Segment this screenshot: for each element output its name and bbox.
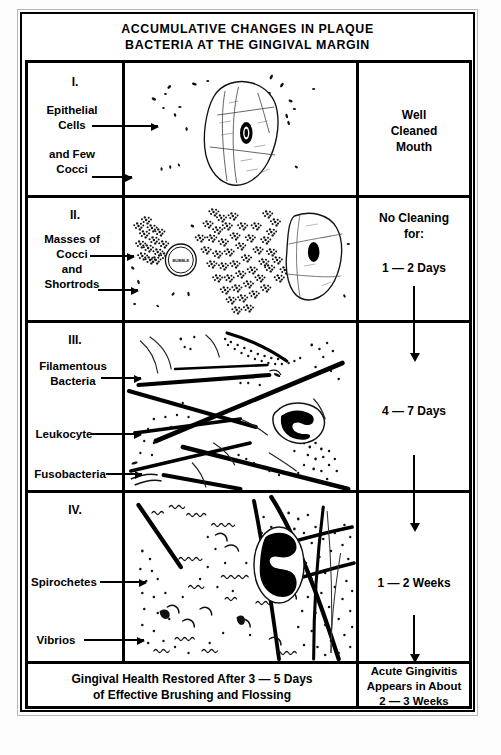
label-leukocyte: Leukocyte <box>28 427 100 442</box>
time-well-cleaned-mouth: Well Cleaned Mouth <box>359 107 469 155</box>
stage-numeral-ii: II. <box>28 208 122 222</box>
pointer-epithelial-cells <box>92 125 158 127</box>
label-and-few-cocci-line1: and Few <box>28 147 116 162</box>
label-vibrios: Vibrios <box>28 633 84 648</box>
footer-main-line1: Gingival Health Restored After 3 — 5 Day… <box>72 671 313 687</box>
pointer-fusobacteria <box>106 473 142 475</box>
footer-main-message: Gingival Health Restored After 3 — 5 Day… <box>28 664 359 709</box>
cocci-mass-center <box>195 208 291 314</box>
arrow-head-into-iv <box>413 490 415 524</box>
arrow-head-into-iii <box>413 320 415 354</box>
time-iv-duration: 1 — 2 Weeks <box>359 575 469 591</box>
label-and-few-cocci: and Few Cocci <box>28 147 116 177</box>
pointer-vibrios <box>84 639 144 641</box>
pointer-spirochetes <box>100 581 146 583</box>
pointer-filamentous-bacteria <box>101 377 141 379</box>
pointer-masses-of-cocci <box>90 255 134 257</box>
footer-side-message: Acute Gingivitis Appears in About 2 — 3 … <box>359 664 469 709</box>
panel-ii-illustration: BUBBLE <box>125 198 359 320</box>
pointer-shortrods <box>98 289 138 291</box>
time-ii-line2: for: <box>359 226 469 242</box>
stage-numeral-i: I. <box>28 75 122 89</box>
time-cell-i: Well Cleaned Mouth <box>359 63 469 195</box>
title-line-2: BACTERIA AT THE GINGIVAL MARGIN <box>125 37 370 53</box>
cocci-chain <box>224 338 301 366</box>
chart-frame: ACCUMULATIVE CHANGES IN PLAQUE BACTERIA … <box>20 12 475 712</box>
time-i-line3: Mouth <box>359 139 469 155</box>
footer-side-line2: Appears in About <box>367 679 462 694</box>
panel-iv-illustration <box>125 493 359 661</box>
label-cell-iv: IV. Spirochetes Vibrios <box>28 493 125 661</box>
panel-iv-artwork <box>125 493 356 661</box>
label-and-shortrods-line1: and <box>28 262 116 277</box>
row-stage-iii: III. Filamentous Bacteria Leukocyte Fuso… <box>28 323 469 493</box>
row-stage-ii: II. Masses of Cocci and Shortrods <box>28 198 469 323</box>
time-i-line1: Well <box>359 107 469 123</box>
diagram-page: ACCUMULATIVE CHANGES IN PLAQUE BACTERIA … <box>0 0 501 755</box>
time-no-cleaning: No Cleaning for: <box>359 210 469 242</box>
time-i-line2: Cleaned <box>359 123 469 139</box>
row-footer: Gingival Health Restored After 3 — 5 Day… <box>28 664 469 709</box>
time-ii-line1: No Cleaning <box>359 210 469 226</box>
label-cell-ii: II. Masses of Cocci and Shortrods <box>28 198 125 320</box>
bubble-marker: BUBBLE <box>165 244 196 276</box>
row-stage-i: I. Epithelial Cells and Few Cocci <box>28 63 469 198</box>
label-and-few-cocci-line2: Cocci <box>28 162 116 177</box>
label-masses-of-cocci: Masses of Cocci <box>28 232 116 262</box>
label-cell-i: I. Epithelial Cells and Few Cocci <box>28 63 125 195</box>
label-epithelial-cells-line1: Epithelial <box>28 103 116 118</box>
label-spirochetes: Spirochetes <box>28 575 100 590</box>
pointer-cocci <box>92 176 132 178</box>
stage-numeral-iii: III. <box>28 333 122 347</box>
panel-ii-artwork: BUBBLE <box>125 198 356 320</box>
footer-main-line2: of Effective Brushing and Flossing <box>93 687 291 703</box>
label-fusobacteria: Fusobacteria <box>28 467 112 482</box>
panel-i-illustration <box>125 63 359 195</box>
panel-iii-artwork <box>125 323 356 490</box>
filaments-iv <box>138 497 354 659</box>
time-cell-ii: No Cleaning for: 1 — 2 Days <box>359 198 469 320</box>
time-cell-iv: 1 — 2 Weeks <box>359 493 469 661</box>
time-cell-iii: 4 — 7 Days <box>359 323 469 490</box>
label-cell-iii: III. Filamentous Bacteria Leukocyte Fuso… <box>28 323 125 490</box>
panel-iii-illustration <box>125 323 359 490</box>
arrow-iii-to-iv <box>413 455 415 493</box>
label-masses-of-cocci-line1: Masses of <box>28 232 116 247</box>
time-iii-duration: 4 — 7 Days <box>359 403 469 419</box>
label-epithelial-cells: Epithelial Cells <box>28 103 116 133</box>
footer-side-line1: Acute Gingivitis <box>371 664 458 679</box>
label-and-shortrods: and Shortrods <box>28 262 116 292</box>
arrow-iv-to-footer <box>413 615 415 655</box>
label-filamentous-bacteria-line1: Filamentous <box>28 359 118 374</box>
label-filamentous-bacteria: Filamentous Bacteria <box>28 359 118 389</box>
stage-numeral-iv: IV. <box>28 503 122 517</box>
stage-grid: I. Epithelial Cells and Few Cocci <box>25 60 472 709</box>
pointer-leukocyte <box>91 433 141 435</box>
bubble-label: BUBBLE <box>172 258 189 263</box>
footer-side-line3: 2 — 3 Weeks <box>379 694 448 709</box>
title-line-1: ACCUMULATIVE CHANGES IN PLAQUE <box>121 21 374 37</box>
chart-title: ACCUMULATIVE CHANGES IN PLAQUE BACTERIA … <box>22 14 473 60</box>
panel-i-artwork <box>125 63 356 195</box>
epithelial-cell-nucleus-ii <box>308 242 320 262</box>
row-stage-iv: IV. Spirochetes Vibrios <box>28 493 469 664</box>
time-ii-duration: 1 — 2 Days <box>359 260 469 276</box>
